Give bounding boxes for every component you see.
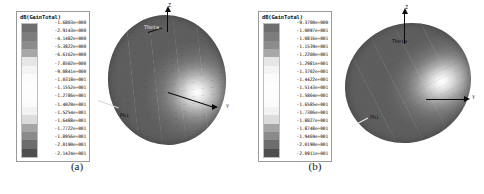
colorbar-swatch (22, 149, 37, 157)
colorbar-tick-label: -1.7306e+001 (282, 109, 329, 117)
colorbar-swatch (22, 57, 37, 65)
y-axis (426, 94, 478, 108)
y-axis-label: Y (226, 103, 229, 109)
colorbar-tick-label: -1.5143e+001 (282, 84, 329, 92)
y-axis (168, 88, 226, 112)
colorbar-swatch (264, 132, 279, 140)
legend-box-b: dB(GainTotal) -9.3700e+000-1.0097e+001-1… (258, 11, 332, 162)
colorbar-tick-label: -2.0911e+001 (282, 150, 329, 158)
colorbar-tick-label: -1.2981e+001 (282, 60, 329, 68)
colorbar-swatch (22, 91, 37, 99)
colorbar-swatch (22, 66, 37, 74)
lobe-meridian (195, 12, 210, 141)
colorbar-tick-label: -1.4020e+001 (40, 101, 87, 109)
colorbar-swatch (22, 99, 37, 107)
lobe-meridian (172, 14, 187, 143)
colorbar-tick-label: -1.1539e+001 (282, 44, 329, 52)
figure-sheet: dB(GainTotal) -1.6803e+000-2.9143e+000-4… (0, 0, 484, 194)
colorbar-swatch (264, 124, 279, 132)
colorbar-tick-label: -9.3700e+000 (282, 19, 329, 27)
colorbar-tick-label: -1.8027e+001 (282, 117, 329, 125)
colorbar-tick-label: -1.6488e+001 (40, 117, 87, 125)
colorbar-tick-label: -1.0097e+001 (282, 27, 329, 35)
colorbar-tick-label: -2.0190e+001 (40, 142, 87, 150)
colorbar-tick-label: -2.9143e+000 (40, 27, 87, 35)
colorbar-swatch (22, 32, 37, 40)
colorbar-tick-label: -1.6803e+000 (40, 19, 87, 27)
colorbar-tick-label: -1.7722e+001 (40, 125, 87, 133)
colorbar-tick-label: -1.2786e+001 (40, 93, 87, 101)
lobe-meridian (125, 19, 140, 148)
colorbar-tick-label: -1.1552e+001 (40, 84, 87, 92)
colorbar-tick-label: -2.0190e+001 (282, 142, 329, 150)
colorbar-swatch (22, 74, 37, 82)
colorbar-swatch (22, 82, 37, 90)
colorbar-swatch (22, 140, 37, 148)
theta-axis-label: Theta (392, 38, 407, 44)
colorbar-swatch (22, 115, 37, 123)
panel-caption-b: (b) (194, 160, 436, 172)
colorbar-swatch (264, 115, 279, 123)
colorbar-swatch (22, 132, 37, 140)
phi-axis-label: Phi (120, 112, 129, 118)
colorbar-tick-label: -1.5864e+001 (282, 93, 329, 101)
legend-body: -1.6803e+000-2.9143e+000-4.1482e+000-5.3… (21, 23, 87, 158)
colorbar-swatch (264, 49, 279, 57)
colorbar-tick-label: -1.0816e+001 (282, 35, 329, 43)
colorbar-labels: -9.3700e+000-1.0097e+001-1.0816e+001-1.1… (282, 19, 329, 158)
colorbar-tick-label: -1.0318e+001 (40, 76, 87, 84)
colorbar-swatch (264, 66, 279, 74)
colorbar-tick-label: -1.8748e+001 (282, 125, 329, 133)
colorbar-swatch (264, 149, 279, 157)
colorbar-swatch (264, 24, 279, 32)
colorbar-swatch (22, 107, 37, 115)
colorbar-tick-label: -5.3822e+000 (40, 44, 87, 52)
colorbar-tick-label: -1.5254e+001 (40, 109, 87, 117)
colorbar-swatch (264, 57, 279, 65)
colorbar-swatch (264, 74, 279, 82)
colorbar-swatch (264, 41, 279, 49)
colorbar-swatch (264, 99, 279, 107)
colorbar-swatch (22, 24, 37, 32)
colorbar-swatch (22, 49, 37, 57)
colorbar-swatches (21, 23, 38, 158)
legend-body: -9.3700e+000-1.0097e+001-1.0816e+001-1.1… (263, 23, 329, 158)
colorbar-swatch (264, 107, 279, 115)
colorbar-tick-label: -1.2260e+001 (282, 52, 329, 60)
lobe-meridian (347, 47, 401, 153)
z-axis-label: Z (168, 2, 171, 8)
colorbar-tick-label: -1.3702e+001 (282, 68, 329, 76)
legend-box-a: dB(GainTotal) -1.6803e+000-2.9143e+000-4… (16, 11, 90, 162)
colorbar-swatch (22, 41, 37, 49)
panel-b: dB(GainTotal) -9.3700e+000-1.0097e+001-1… (242, 0, 484, 194)
y-axis-label: Y (472, 94, 475, 100)
colorbar-swatch (264, 82, 279, 90)
colorbar-tick-label: -1.9469e+001 (282, 133, 329, 141)
colorbar-tick-label: -2.1424e+001 (40, 150, 87, 158)
theta-axis-label: Theta (144, 24, 159, 30)
colorbar-labels: -1.6803e+000-2.9143e+000-4.1482e+000-5.3… (40, 19, 87, 158)
colorbar-tick-label: -1.6585e+001 (282, 101, 329, 109)
z-axis-label: Z (405, 4, 408, 10)
radiation-pattern-plot-a: Z Theta Y Phi (96, 2, 242, 154)
phi-axis-label: Phi (370, 114, 379, 120)
radiation-pattern-plot-b: Z Theta Y Phi (338, 2, 484, 154)
colorbar-swatch (22, 124, 37, 132)
colorbar-swatch (264, 140, 279, 148)
colorbar-tick-label: -1.8956e+001 (40, 133, 87, 141)
colorbar-tick-label: -4.1482e+000 (40, 35, 87, 43)
colorbar-swatches (263, 23, 280, 158)
colorbar-swatch (264, 91, 279, 99)
colorbar-tick-label: -1.4422e+001 (282, 76, 329, 84)
colorbar-tick-label: -7.8502e+000 (40, 60, 87, 68)
colorbar-tick-label: -9.0841e+000 (40, 68, 87, 76)
colorbar-tick-label: -6.6162e+000 (40, 52, 87, 60)
colorbar-swatch (264, 32, 279, 40)
panel-caption-a: (a) (0, 160, 198, 172)
